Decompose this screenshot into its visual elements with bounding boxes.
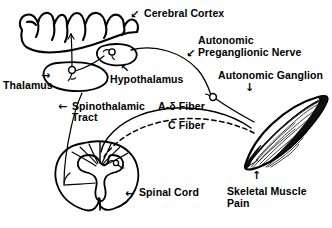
label-spinal-cord: Spinal Cord	[139, 187, 199, 199]
autonomic-ganglion-pointer-arrow: ↓	[245, 82, 254, 93]
thalamus-neuron	[68, 67, 76, 81]
autonomic-preganglionic-pointer-arrow: ↙	[186, 48, 195, 59]
label-autonomic-preganglionic-nerve-line1: Autonomic	[198, 35, 254, 47]
autonomic-ganglion-shape	[205, 94, 216, 101]
thalamocortical-projection	[68, 34, 74, 70]
pain-pathway-diagram: ↙ Cerebral Cortex Autonomic ↙ Preganglio…	[0, 0, 332, 228]
spinal-cord-shape	[55, 141, 138, 210]
label-thalamus: Thalamus	[3, 80, 53, 92]
skeletal-muscle-pointer-arrow: ↑	[252, 170, 261, 181]
hypothalamus-neuron	[103, 49, 115, 60]
cerebral-cortex-shape	[20, 13, 138, 52]
spinal-cord-pointer-arrow: ←	[125, 188, 134, 199]
cerebral-cortex-pointer-arrow: ↙	[130, 9, 139, 20]
label-autonomic-ganglion: Autonomic Ganglion	[218, 70, 323, 82]
hypothalamus-shape	[97, 44, 137, 65]
skeletal-muscle-shape	[245, 96, 328, 169]
label-cerebral-cortex: Cerebral Cortex	[144, 8, 224, 20]
label-spinothalamic-tract-line2: Tract	[72, 111, 98, 123]
label-skeletal-muscle-pain-line2: Pain	[227, 197, 250, 209]
thalamus-shape	[44, 62, 108, 91]
label-autonomic-preganglionic-nerve-line2: Preganglionic Nerve	[198, 47, 301, 59]
label-skeletal-muscle-pain-line1: Skeletal Muscle	[227, 185, 307, 197]
spinothalamic-pointer-arrow: ←	[58, 101, 67, 112]
label-hypothalamus: Hypothalamus	[110, 74, 184, 86]
label-c-fiber: C Fiber	[168, 120, 205, 132]
label-a-delta-fiber: A-δ Fiber	[158, 101, 205, 113]
